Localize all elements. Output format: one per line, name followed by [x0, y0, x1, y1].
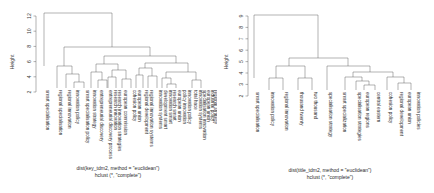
left-ytick-2: 2: [26, 90, 32, 93]
leaf-label: regional development: [144, 90, 149, 135]
leaf-label: regional innovation: [284, 92, 289, 131]
right-ytick-9: 9: [238, 14, 244, 17]
figure-canvas: 12 10 8 6 4 2 Height: [0, 0, 434, 193]
left-caption-line1: dist(key_tdm2, method = "euclidean"): [77, 165, 160, 171]
leaf-label: smart specialisation policy: [85, 90, 90, 144]
leaf-label: regional innovation systems: [149, 90, 154, 147]
right-ytick-2: 2: [238, 94, 244, 97]
leaf-label: european union: [137, 90, 142, 122]
right-caption-line1: dist(title_tdm2, method = "euclidean"): [289, 167, 372, 173]
leaf-label: smart specialisation: [255, 92, 260, 133]
dendrogram-panel-right: 9 8 7 6 5 4 3 2 Height: [217, 0, 434, 193]
leaf-label: european union: [407, 92, 412, 124]
right-ytick-6: 6: [238, 49, 244, 52]
leaf-label: research innovation strategies: [117, 90, 122, 152]
left-ytick-6: 6: [26, 60, 32, 63]
left-ytick-4: 4: [26, 75, 32, 78]
left-leaf-labels: smart specialisation regional specialisa…: [45, 90, 218, 160]
leaf-label: total hace: [193, 90, 198, 110]
leaf-label: smart specialisation: [45, 90, 50, 131]
leaf-label: central eastern: [376, 92, 381, 123]
right-plot-svg: 9 8 7 6 5 4 3 2 Height: [217, 0, 434, 193]
leaf-label: research smart: [172, 90, 177, 121]
leaf-label: thousand twenty: [299, 92, 304, 126]
leaf-label: cohesion policy: [132, 90, 137, 122]
leaf-label: innovation policy: [270, 92, 275, 127]
leaf-label: cohesion policy: [388, 92, 393, 124]
leaf-label: regional innovation: [67, 90, 72, 129]
leaf-label: policy innovation: [182, 90, 187, 124]
right-caption-line2: hclust (*, "complete"): [307, 174, 354, 180]
leaf-label: entrepreneurial discovery: [99, 90, 104, 142]
left-plot-svg: 12 10 8 6 4 2 Height: [0, 0, 217, 193]
right-dendrogram-tree: [254, 15, 411, 90]
leaf-label: specialisation strategy: [328, 92, 333, 138]
leaf-label: two thousand: [313, 92, 318, 120]
left-dendrogram-tree: [44, 13, 201, 88]
leaf-label: innovation policies: [416, 92, 421, 130]
leaf-label: entrepreneurial discovery process: [108, 90, 113, 160]
dendrogram-panel-left: 12 10 8 6 4 2 Height: [0, 0, 217, 193]
left-ytick-10: 10: [26, 28, 32, 34]
right-y-axis-title: Height: [223, 54, 229, 70]
right-ytick-5: 5: [238, 60, 244, 63]
right-ytick-4: 4: [238, 71, 244, 74]
right-ytick-7: 7: [238, 37, 244, 40]
leaf-label: innovation strategy: [92, 90, 97, 129]
leaf-label: regional development: [399, 92, 404, 137]
leaf-label: innovation systems: [158, 90, 163, 130]
leaf-label: european union: [177, 90, 182, 122]
leaf-label: innovation policy: [187, 90, 192, 125]
leaf-label: european commission: [123, 90, 128, 135]
right-y-axis: [246, 16, 249, 96]
left-ytick-8: 8: [26, 45, 32, 48]
right-ytick-3: 3: [238, 83, 244, 86]
leaf-label: european regions: [365, 92, 370, 128]
left-y-axis: [34, 16, 37, 92]
right-leaf-labels: smart specialisation innovation policy r…: [255, 92, 421, 141]
leaf-label: regional specialisation: [58, 90, 63, 136]
leaf-label: innovation policy: [75, 90, 80, 125]
leaf-label: smart specialization: [342, 92, 347, 133]
left-ytick-12: 12: [26, 13, 32, 19]
left-caption-line2: hclust (*, "complete"): [95, 172, 142, 178]
leaf-label: development smart: [163, 90, 168, 130]
right-ytick-8: 8: [238, 26, 244, 29]
left-y-axis-title: Height: [9, 54, 15, 70]
leaf-label: specialisation strategies: [357, 92, 362, 141]
